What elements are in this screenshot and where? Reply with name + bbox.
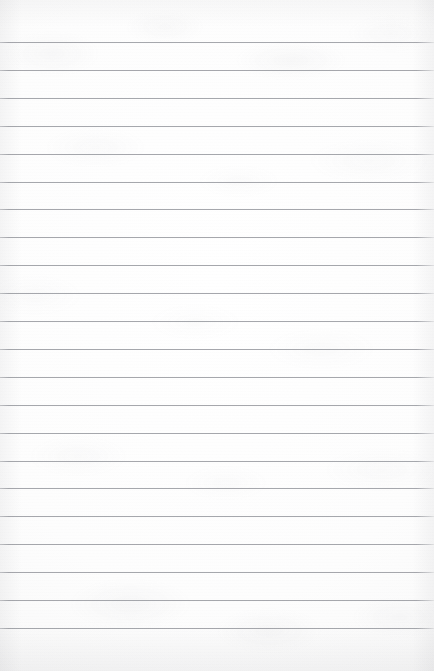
notebook-page — [0, 0, 434, 671]
writing-area[interactable] — [0, 42, 434, 628]
rule-line — [0, 628, 434, 629]
